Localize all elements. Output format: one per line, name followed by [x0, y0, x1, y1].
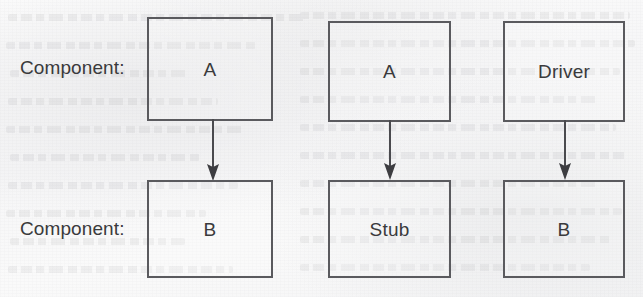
box-label-column-3-bottom: B	[558, 220, 571, 239]
scanned-page: Component: Component: A B A Stub Driver	[0, 0, 643, 297]
box-column-3-bottom[interactable]: B	[503, 180, 625, 278]
box-column-1-top[interactable]: A	[147, 17, 273, 121]
box-column-1-bottom[interactable]: B	[147, 180, 273, 278]
component-diagram: Component: Component: A B A Stub Driver	[0, 0, 643, 297]
box-label-column-2-top: A	[383, 62, 396, 81]
box-label-column-1-top: A	[204, 60, 217, 79]
arrow-column-3	[555, 120, 575, 182]
box-label-column-2-bottom: Stub	[370, 220, 410, 239]
arrow-column-1	[203, 119, 223, 183]
box-column-3-top[interactable]: Driver	[503, 21, 625, 122]
box-label-column-3-top: Driver	[538, 62, 590, 81]
box-column-2-bottom[interactable]: Stub	[328, 180, 451, 278]
arrow-column-2	[380, 120, 400, 182]
row-label-top: Component:	[20, 58, 125, 77]
box-label-column-1-bottom: B	[204, 220, 217, 239]
row-label-bottom: Component:	[20, 219, 125, 238]
box-column-2-top[interactable]: A	[328, 21, 451, 122]
